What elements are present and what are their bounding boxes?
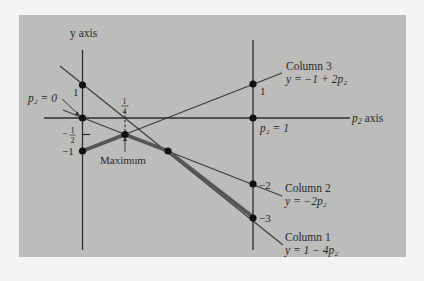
p2-axis-label: p2 axis — [351, 112, 384, 126]
neg-half-den: 2 — [71, 136, 75, 145]
p2-zero-label: p₂ = 0 — [27, 92, 57, 105]
point-col1-col2-intersect — [164, 147, 171, 154]
column-2-equation: y = −2p₂ — [284, 195, 327, 208]
point-right-0 — [249, 114, 256, 121]
game-theory-diagram: y axis 1 p₂ = 0 − 1 2 −1 1 4 Maximum 1 p… — [0, 0, 424, 281]
point-right-1 — [249, 80, 256, 87]
quarter-den: 4 — [123, 107, 127, 116]
quarter-num: 1 — [123, 97, 127, 106]
right-one-label: 1 — [260, 85, 266, 97]
point-origin — [79, 114, 86, 121]
right-neg-three-label: −3 — [259, 212, 271, 224]
column-2-name-text: Column 2 — [285, 182, 331, 194]
column-3-equation: y = −1 + 2p₂ — [285, 73, 347, 86]
y-one-label: 1 — [73, 86, 79, 98]
column-1-equation: y = 1 − 4p₂ — [284, 244, 338, 257]
point-y-1 — [79, 81, 86, 88]
neg-one-label: −1 — [62, 145, 74, 157]
column-3-name: Column 3 — [286, 60, 332, 72]
point-right-neg-2 — [249, 180, 256, 187]
column-1-name: Column 1 — [285, 231, 331, 243]
maximum-label: Maximum — [100, 154, 146, 166]
neg-half-num: 1 — [71, 126, 75, 135]
neg-half-sign: − — [62, 128, 68, 139]
p2-one-label: p₂ = 1 — [259, 122, 289, 135]
point-y-neg-1 — [79, 147, 86, 154]
point-maximum — [121, 131, 128, 138]
lower-envelope — [83, 135, 254, 218]
point-right-neg-3 — [249, 214, 256, 221]
right-neg-two-label: −2 — [259, 179, 271, 191]
p2-zero-arrow — [62, 99, 78, 114]
y-axis-label: y axis — [70, 27, 98, 40]
